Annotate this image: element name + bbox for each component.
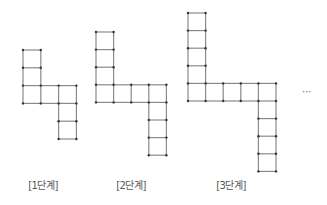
matchstick-head <box>22 102 24 104</box>
matchstick-head <box>75 120 77 122</box>
matchstick-head <box>222 82 224 84</box>
matchstick-head <box>204 47 206 49</box>
matchstick-head <box>275 153 277 155</box>
stage-1-label: [1단계] <box>28 177 58 192</box>
matchstick-head <box>40 102 42 104</box>
matchstick-head <box>240 82 242 84</box>
matchstick-head <box>257 135 259 137</box>
matchstick-head <box>95 101 97 103</box>
matchstick-head <box>222 100 224 102</box>
matchstick-head <box>148 84 150 86</box>
matchstick-head <box>112 48 114 50</box>
matchstick-head <box>204 12 206 14</box>
matchstick-head <box>148 101 150 103</box>
matchstick-head <box>165 154 167 156</box>
matchstick-head <box>57 84 59 86</box>
matchstick-head <box>165 101 167 103</box>
matchstick-head <box>112 66 114 68</box>
matchstick-head <box>75 102 77 104</box>
matchstick-head <box>165 119 167 121</box>
matchstick-head <box>112 101 114 103</box>
matchstick-head <box>275 82 277 84</box>
matchstick-head <box>95 66 97 68</box>
matchstick-head <box>130 101 132 103</box>
matchstick-head <box>57 120 59 122</box>
matchstick-head <box>40 67 42 69</box>
matchstick-head <box>57 102 59 104</box>
matchstick-head <box>257 82 259 84</box>
matchstick-head <box>257 100 259 102</box>
matchstick-head <box>95 31 97 33</box>
matchstick-head <box>187 47 189 49</box>
matchstick-head <box>187 82 189 84</box>
matchstick-head <box>95 84 97 86</box>
matchstick-head <box>112 84 114 86</box>
matchstick-head <box>95 48 97 50</box>
matchstick-head <box>75 84 77 86</box>
stage-1-figure <box>22 49 78 140</box>
stage-2-figure <box>95 31 168 157</box>
matchstick-head <box>240 100 242 102</box>
matchstick-head <box>275 135 277 137</box>
matchstick-head <box>187 12 189 14</box>
stage-3-label: [3단계] <box>216 177 246 192</box>
matchstick-head <box>148 136 150 138</box>
matchstick-head <box>130 84 132 86</box>
matchstick-head <box>57 138 59 140</box>
continuation-ellipsis: ··· <box>302 86 312 97</box>
matchstick-head <box>165 84 167 86</box>
matchstick-head <box>275 117 277 119</box>
matchstick-head <box>187 29 189 31</box>
matchstick-head <box>22 49 24 51</box>
matchstick-head <box>165 136 167 138</box>
matchstick-head <box>275 100 277 102</box>
matchstick-head <box>112 31 114 33</box>
matchstick-head <box>204 82 206 84</box>
matchstick-head <box>148 119 150 121</box>
matchstick-head <box>204 29 206 31</box>
matchstick-head <box>204 100 206 102</box>
matchstick-head <box>187 65 189 67</box>
matchstick-head <box>75 138 77 140</box>
matchstick-head <box>204 65 206 67</box>
matchstick-head <box>257 170 259 172</box>
matchstick-head <box>257 153 259 155</box>
matchstick-head <box>40 49 42 51</box>
matchstick-head <box>148 154 150 156</box>
matchstick-head <box>22 67 24 69</box>
matchstick-head <box>257 117 259 119</box>
stage-2-label: [2단계] <box>116 177 146 192</box>
matchstick-head <box>22 84 24 86</box>
matchstick-head <box>275 170 277 172</box>
stage-3-figure <box>187 12 277 173</box>
matchstick-head <box>187 100 189 102</box>
pattern-diagram <box>0 0 327 205</box>
matchstick-head <box>40 84 42 86</box>
